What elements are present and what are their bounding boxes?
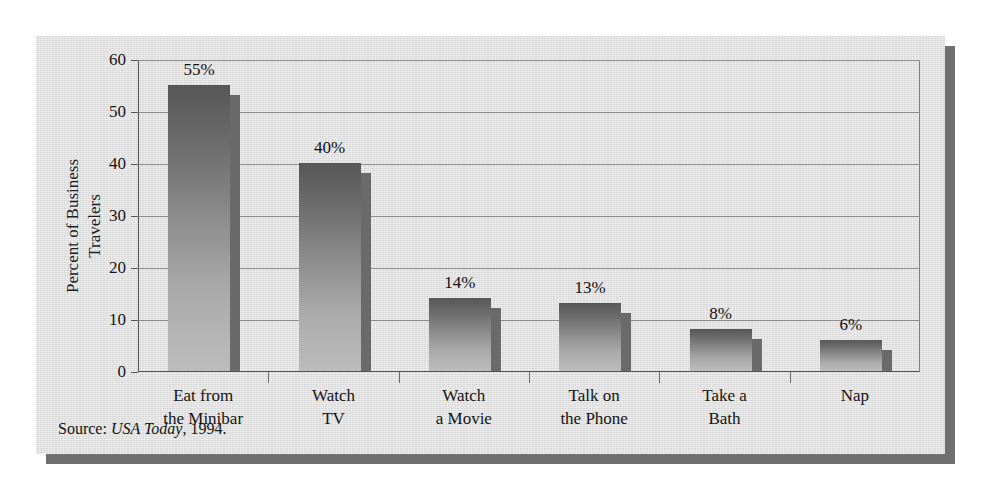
y-axis-tick [131,112,138,113]
y-axis-tick [131,372,138,373]
x-axis-label-line: Talk on [560,384,628,407]
x-axis-category-label: Watcha Movie [436,384,492,431]
x-axis-category-label: WatchTV [312,384,355,431]
x-axis-tick [399,372,400,383]
y-axis-title-line-1: Percent of Business [62,159,84,293]
source-prefix: Source: [58,420,111,437]
gridline [138,216,920,217]
y-axis-tick-label: 0 [118,362,127,382]
y-axis-tick-label: 40 [109,154,126,174]
chart-panel: Percent of Business Travelers 0102030405… [36,36,945,454]
x-axis-category-label: Nap [841,384,869,407]
y-axis-tick-label: 10 [109,310,126,330]
x-axis-label-line: Take a [702,384,747,407]
x-axis-tick [659,372,660,383]
gridline [138,164,920,165]
gridline [138,112,920,113]
gridline [138,60,920,61]
bar-value-label: 14% [444,273,475,293]
source-publication: USA Today [111,420,183,437]
bar-value-label: 40% [314,138,345,158]
bar[interactable] [559,303,621,371]
x-axis-label-line: Watch [312,384,355,407]
y-axis-tick [131,216,138,217]
source-note: Source: USA Today, 1994. [58,420,226,438]
y-axis-tick [131,60,138,61]
bar[interactable] [820,340,882,371]
y-axis-tick [131,164,138,165]
x-axis-tick [790,372,791,383]
y-axis-title-line-2: Travelers [84,159,106,293]
x-axis-category-label: Take aBath [702,384,747,431]
y-axis-tick [131,320,138,321]
source-suffix: , 1994. [182,420,226,437]
x-axis-tick [529,372,530,383]
x-axis-label-line: Nap [841,384,869,407]
bar[interactable] [690,329,752,371]
bar-value-label: 6% [839,315,862,335]
y-axis-tick [131,268,138,269]
x-axis-label-line: Bath [702,407,747,430]
gridline [138,320,920,321]
y-axis-tick-label: 50 [109,102,126,122]
y-axis-title: Percent of Business Travelers [56,76,112,376]
x-axis-label-line: Eat from [163,384,243,407]
gridline [138,268,920,269]
bar-value-label: 8% [709,304,732,324]
x-axis-label-line: the Phone [560,407,628,430]
bar[interactable] [299,163,361,371]
bar[interactable] [429,298,491,371]
y-axis-tick-label: 60 [109,50,126,70]
x-axis-label-line: TV [312,407,355,430]
y-axis-tick-label: 20 [109,258,126,278]
y-axis-tick-label: 30 [109,206,126,226]
x-axis-tick [268,372,269,383]
x-axis-label-line: Watch [436,384,492,407]
bar-value-label: 55% [184,60,215,80]
x-axis-label-line: a Movie [436,407,492,430]
figure-root: Percent of Business Travelers 0102030405… [0,0,981,488]
bar-value-label: 13% [575,278,606,298]
plot-area: 010203040506055%Eat fromthe Minibar40%Wa… [138,60,920,372]
bar[interactable] [168,85,230,371]
x-axis-category-label: Talk onthe Phone [560,384,628,431]
